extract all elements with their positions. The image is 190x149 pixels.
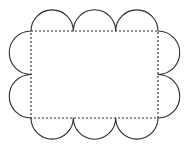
scallop-outline-stroke bbox=[9, 10, 180, 139]
scalloped-rectangle-diagram: Scalloped rectangle outline with inscrib… bbox=[0, 0, 190, 149]
figure-container: Scalloped rectangle outline with inscrib… bbox=[0, 0, 190, 149]
